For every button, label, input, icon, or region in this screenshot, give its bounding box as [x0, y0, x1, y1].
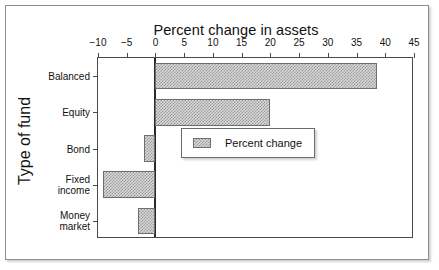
- x-axis-tick: [299, 53, 300, 58]
- x-axis-tick-label: 20: [265, 37, 276, 48]
- y-axis-tick: [93, 149, 98, 150]
- x-axis-tick-label: 25: [294, 37, 305, 48]
- bar: [103, 171, 156, 198]
- y-axis-tick-label: Balanced: [48, 71, 90, 82]
- x-axis-tick-label: 35: [351, 37, 362, 48]
- y-axis-title: Type of fund: [16, 66, 38, 216]
- x-axis-tick-label: 0: [153, 37, 159, 48]
- y-axis-tick-label: Bond: [67, 143, 90, 154]
- x-axis-tick: [98, 53, 99, 58]
- bar: [155, 63, 376, 90]
- x-axis-tick: [357, 53, 358, 58]
- x-axis-tick-label: 30: [322, 37, 333, 48]
- bar: [155, 99, 270, 126]
- legend-swatch-icon: [193, 138, 211, 148]
- x-axis-tick: [127, 53, 128, 58]
- chart-legend: Percent change: [181, 128, 315, 158]
- x-axis-tick: [385, 53, 386, 58]
- x-axis-tick-label: −10: [90, 37, 107, 48]
- x-axis-tick: [414, 53, 415, 58]
- bar: [144, 135, 155, 162]
- legend-label: Percent change: [225, 137, 302, 149]
- chart-title: Percent change in assets: [6, 22, 430, 38]
- x-axis-tick-label: 15: [236, 37, 247, 48]
- y-axis-tick-label: Equity: [62, 107, 90, 118]
- y-axis-tick: [93, 76, 98, 77]
- y-axis-tick: [93, 185, 98, 186]
- x-axis-tick: [184, 53, 185, 58]
- x-axis-tick: [328, 53, 329, 58]
- chart-figure: Percent change in assets Type of fund −1…: [5, 5, 429, 260]
- bar: [138, 208, 155, 235]
- x-axis-tick: [242, 53, 243, 58]
- x-axis-tick: [155, 53, 156, 58]
- x-axis-tick-label: 45: [408, 37, 419, 48]
- x-axis-tick-label: 10: [207, 37, 218, 48]
- x-axis-tick-label: −5: [121, 37, 132, 48]
- x-axis-tick-label: 5: [181, 37, 187, 48]
- y-axis-tick: [93, 112, 98, 113]
- x-axis-tick: [270, 53, 271, 58]
- x-axis-tick: [213, 53, 214, 58]
- y-axis-tick: [93, 221, 98, 222]
- y-axis-tick-label: Money market: [59, 210, 90, 232]
- x-axis-tick-label: 40: [380, 37, 391, 48]
- y-axis-tick-label: Fixed income: [58, 174, 90, 196]
